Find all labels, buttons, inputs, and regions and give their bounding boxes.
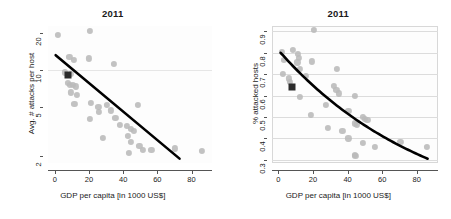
x-axis-tick-label: 60 — [153, 175, 161, 184]
x-axis-tick — [157, 171, 158, 174]
x-axis-tick — [123, 171, 124, 174]
x-axis-tick-label: 40 — [119, 175, 127, 184]
x-axis-tick — [192, 171, 193, 174]
gridline-y — [272, 160, 438, 161]
x-axis-tick-label: 80 — [187, 175, 195, 184]
panel-left-plot-area — [48, 26, 212, 163]
x-axis-tick — [278, 171, 279, 174]
x-axis-tick-label: 0 — [53, 175, 57, 184]
panel-right-title: 2011 — [226, 8, 451, 19]
x-axis-tick-label: 20 — [309, 175, 317, 184]
x-axis-line — [48, 170, 212, 171]
x-axis-tick-label: 60 — [378, 175, 386, 184]
y-axis-tick-label: 0.8 — [257, 51, 266, 71]
x-axis-line — [272, 170, 438, 171]
x-axis-tick-label: 0 — [276, 175, 280, 184]
x-axis-tick — [89, 171, 90, 174]
y-axis-tick-label: 0.6 — [257, 94, 266, 114]
y-axis-tick-label: 0.7 — [257, 73, 266, 93]
x-axis-tick-label: 40 — [343, 175, 351, 184]
x-axis-tick-label: 20 — [85, 175, 93, 184]
y-axis-tick-label: 0.4 — [257, 137, 266, 157]
panel-left-y-axis-title: Avg. # attacks per host — [27, 38, 36, 148]
y-axis-tick-label: 0.3 — [257, 158, 266, 178]
y-axis-tick-label: 20 — [34, 32, 43, 52]
panel-right-x-axis-title: GDP per capita [in 1000 US$] — [226, 191, 451, 200]
y-axis-tick-label: 10 — [34, 69, 43, 89]
gridline-y — [272, 138, 438, 139]
panel-right-attacked-hosts: 2011 % attacked hosts GDP per capita [in… — [226, 0, 451, 219]
x-axis-tick-label: 80 — [413, 175, 421, 184]
x-axis-tick — [417, 171, 418, 174]
gridline-y — [272, 117, 438, 118]
panel-left-x-axis-title: GDP per capita [in 1000 US$] — [0, 191, 226, 200]
y-axis-tick-label: 0.5 — [257, 115, 266, 135]
panel-left-title: 2011 — [0, 8, 226, 19]
highlighted-country-marker — [288, 84, 295, 91]
x-axis-tick — [313, 171, 314, 174]
gridline-y — [272, 31, 438, 32]
y-axis-tick-label: 5 — [34, 106, 43, 126]
x-axis-tick — [55, 171, 56, 174]
panel-right-plot-area — [272, 26, 438, 163]
y-axis-tick-label: 0.9 — [257, 30, 266, 50]
highlighted-country-marker — [65, 72, 72, 79]
x-axis-tick — [348, 171, 349, 174]
figure-two-panel-scatter: 2011 Avg. # attacks per host GDP per cap… — [0, 0, 451, 219]
panel-left-avg-attacks: 2011 Avg. # attacks per host GDP per cap… — [0, 0, 226, 219]
y-axis-tick-label: 2 — [34, 154, 43, 174]
gridline-y — [272, 74, 438, 75]
x-axis-tick — [382, 171, 383, 174]
